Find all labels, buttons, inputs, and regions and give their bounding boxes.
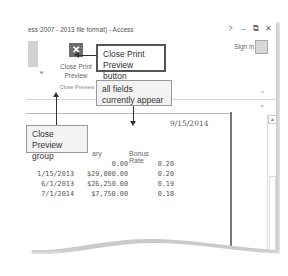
close-print-preview-label-line1: Close Print [50, 62, 102, 71]
title-bar: ess 2007 - 2013 file format) - Access ? … [16, 18, 276, 40]
minimize-icon[interactable]: – [241, 24, 245, 33]
close-window-icon[interactable]: ✕ [265, 24, 272, 33]
sign-in-link[interactable]: Sign in [234, 43, 254, 50]
close-print-preview-label-line2: Preview [50, 71, 102, 80]
close-preview-group-label: Close Preview [52, 84, 102, 90]
callout-arrow [133, 106, 134, 122]
callout-close-preview-group: Close Preview group [26, 125, 88, 153]
partial-ribbon-button-label: e [40, 69, 43, 75]
restore-icon[interactable]: ⧉ [253, 24, 259, 34]
arrowhead-icon [53, 92, 59, 97]
page-edge [230, 112, 232, 252]
window-title: ess 2007 - 2013 file format) - Access [28, 26, 134, 33]
scroll-up-icon[interactable]: ▲ [268, 115, 277, 124]
avatar[interactable] [255, 40, 268, 54]
collapse-ribbon-icon[interactable]: ^ [261, 90, 264, 96]
callout-close-print-preview-button: Close Print Preview button [96, 44, 166, 72]
report-date: 9/15/2014 [170, 119, 208, 128]
callout-arrow [78, 55, 96, 56]
help-icon[interactable]: ? [228, 24, 232, 33]
column-header-salary: ary [92, 150, 102, 157]
callout-all-fields: all fields currently appear [96, 80, 172, 106]
arrowhead-icon [74, 52, 79, 58]
partial-ribbon-button-icon[interactable] [28, 41, 38, 67]
callout-arrow [56, 96, 57, 125]
close-object-icon[interactable]: × [260, 103, 264, 109]
arrowhead-icon [130, 121, 136, 126]
close-print-preview-label[interactable]: Close Print Preview [50, 62, 102, 80]
scroll-thumb[interactable] [269, 176, 276, 252]
